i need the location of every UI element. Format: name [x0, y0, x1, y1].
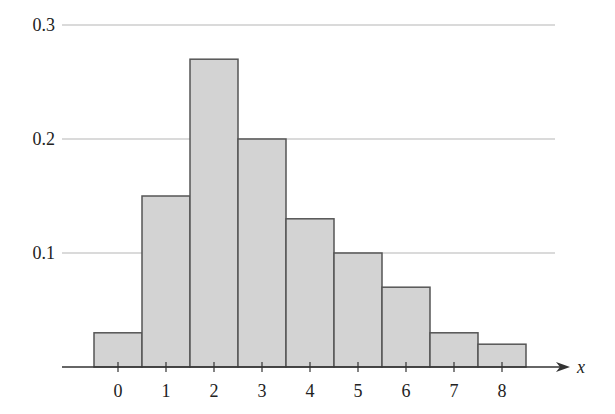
x-tick-label: 3	[258, 381, 267, 401]
x-tick-label: 7	[450, 381, 459, 401]
bar-6	[382, 287, 430, 367]
x-tick-label: 4	[306, 381, 315, 401]
y-tick-label: 0.3	[33, 15, 56, 35]
histogram-chart: 0.10.20.3 012345678 x	[0, 0, 615, 414]
bars	[94, 59, 526, 367]
bar-7	[430, 333, 478, 367]
bar-5	[334, 253, 382, 367]
x-tick-label: 2	[210, 381, 219, 401]
bar-3	[238, 139, 286, 367]
bar-0	[94, 333, 142, 367]
x-axis-title: x	[576, 357, 585, 377]
y-tick-label: 0.2	[33, 129, 56, 149]
bar-4	[286, 219, 334, 367]
x-tick-label: 1	[162, 381, 171, 401]
x-tick-label: 6	[402, 381, 411, 401]
x-tick-label: 8	[498, 381, 507, 401]
bar-1	[142, 196, 190, 367]
bar-2	[190, 59, 238, 367]
y-tick-label: 0.1	[33, 243, 56, 263]
x-tick-label: 5	[354, 381, 363, 401]
x-axis-labels: 012345678	[114, 381, 507, 401]
x-tick-label: 0	[114, 381, 123, 401]
y-axis-labels: 0.10.20.3	[33, 15, 56, 263]
